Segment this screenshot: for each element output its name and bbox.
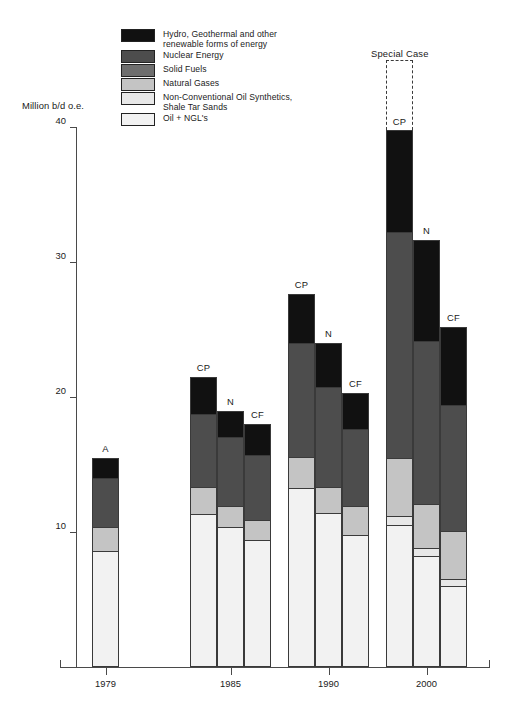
bar-label-1985-CP: CP xyxy=(186,362,221,373)
bar-2000-CF[interactable] xyxy=(440,327,467,667)
x-tick-1990 xyxy=(329,668,330,675)
segment-hydro xyxy=(93,459,118,479)
segment-gas xyxy=(414,505,439,549)
segment-oil xyxy=(441,587,466,666)
segment-hydro xyxy=(343,394,368,430)
bar-1990-N[interactable] xyxy=(315,343,342,667)
segment-oil xyxy=(289,489,314,666)
segment-nonconv xyxy=(441,580,466,587)
bar-label-2000-N: N xyxy=(409,225,444,236)
x-tick-1979 xyxy=(106,668,107,675)
segment-nuclear xyxy=(316,388,341,487)
x-axis-label-2000: 2000 xyxy=(402,678,452,689)
segment-gas xyxy=(343,507,368,536)
segment-hydro xyxy=(414,241,439,342)
bar-1990-CP[interactable] xyxy=(288,294,315,667)
segment-gas xyxy=(316,488,341,515)
bar-label-2000-CF: CF xyxy=(436,312,471,323)
segment-nuclear xyxy=(245,456,270,522)
x-axis-label-1985: 1985 xyxy=(206,678,256,689)
segment-oil xyxy=(218,528,243,666)
segment-hydro xyxy=(245,425,270,456)
segment-nuclear xyxy=(191,415,216,487)
segment-nuclear xyxy=(93,479,118,528)
segment-oil xyxy=(316,514,341,666)
segment-nonconv xyxy=(414,549,439,557)
segment-oil xyxy=(93,552,118,666)
segment-hydro xyxy=(387,131,412,233)
bar-1985-CP[interactable] xyxy=(190,377,217,667)
bar-label-1990-CF: CF xyxy=(338,378,373,389)
x-tick-2000 xyxy=(427,668,428,675)
segment-gas xyxy=(441,532,466,580)
bar-2000-CP[interactable] xyxy=(386,130,413,667)
segment-gas xyxy=(93,528,118,552)
bar-1985-N[interactable] xyxy=(217,411,244,668)
segment-nuclear xyxy=(218,438,243,506)
segment-nuclear xyxy=(414,342,439,505)
segment-nonconv xyxy=(387,517,412,526)
bar-2000-N[interactable] xyxy=(413,240,440,667)
segment-oil xyxy=(414,557,439,666)
bar-label-1990-CP: CP xyxy=(284,279,319,290)
bar-label-1979-A: A xyxy=(88,443,123,454)
segment-nuclear xyxy=(343,430,368,506)
bar-1985-CF[interactable] xyxy=(244,424,271,667)
segment-nuclear xyxy=(387,233,412,459)
bar-label-1985-CF: CF xyxy=(240,409,275,420)
segment-oil xyxy=(191,515,216,667)
chart-root: Hydro, Geothermal and other renewable fo… xyxy=(0,0,507,717)
segment-gas xyxy=(289,458,314,489)
segment-oil xyxy=(387,526,412,666)
segment-gas xyxy=(245,521,270,541)
segment-gas xyxy=(191,488,216,515)
bar-label-1985-N: N xyxy=(213,396,248,407)
plot-area: A1979CPNCF1985CPNCF1990CPNCF2000 xyxy=(0,0,507,717)
segment-hydro xyxy=(441,328,466,406)
x-axis-label-1990: 1990 xyxy=(304,678,354,689)
segment-oil xyxy=(343,536,368,666)
bar-label-2000-CP: CP xyxy=(382,116,417,127)
x-tick-1985 xyxy=(231,668,232,675)
segment-gas xyxy=(218,507,243,528)
segment-nuclear xyxy=(289,344,314,458)
segment-oil xyxy=(245,541,270,666)
x-axis-label-1979: 1979 xyxy=(81,678,131,689)
segment-gas xyxy=(387,459,412,517)
segment-nuclear xyxy=(441,406,466,532)
bar-1979-A[interactable] xyxy=(92,458,119,667)
bar-label-1990-N: N xyxy=(311,328,346,339)
bar-1990-CF[interactable] xyxy=(342,393,369,667)
